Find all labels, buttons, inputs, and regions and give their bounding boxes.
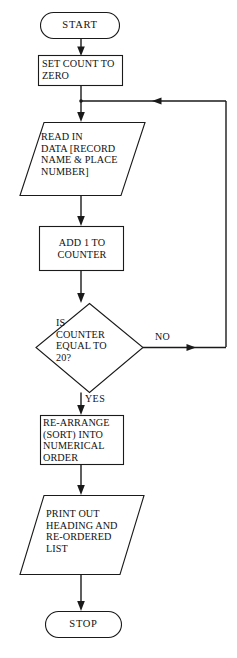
arrowhead-read-in-to-add-one <box>77 216 85 226</box>
arrowhead-decision-yes <box>77 405 85 415</box>
node-read-in-label: READ IN DATA [RECORD NAME & PLACE NUMBER… <box>41 131 141 178</box>
edge-label-yes: YES <box>85 393 105 404</box>
arrowhead-re-arrange-to-print-out <box>77 485 85 495</box>
edge-label-no: NO <box>155 331 170 342</box>
arrowhead-loop-into-junction <box>152 97 162 104</box>
node-re-arrange-label: RE-ARRANGE (SORT) INTO NUMERICAL ORDER <box>43 417 125 464</box>
node-decision-label: IS COUNTER EQUAL TO 20? <box>56 317 134 364</box>
flowchart-canvas: START SET COUNT TO ZERO READ IN DATA [RE… <box>0 0 237 658</box>
node-start-label: START <box>40 19 120 31</box>
node-stop-label: STOP <box>45 618 122 630</box>
arrowhead-junction-to-read-in <box>77 112 85 122</box>
arrowhead-add-one-to-decision <box>77 293 85 303</box>
node-set-count-label: SET COUNT TO ZERO <box>42 58 124 81</box>
arrowhead-decision-no <box>187 344 197 351</box>
node-print-out-label: PRINT OUT HEADING AND RE-ORDERED LIST <box>46 508 140 555</box>
node-add-one-label: ADD 1 TO COUNTER <box>40 237 124 260</box>
arrowhead-start-to-set-count <box>77 47 85 57</box>
arrowhead-print-out-to-stop <box>77 601 85 611</box>
